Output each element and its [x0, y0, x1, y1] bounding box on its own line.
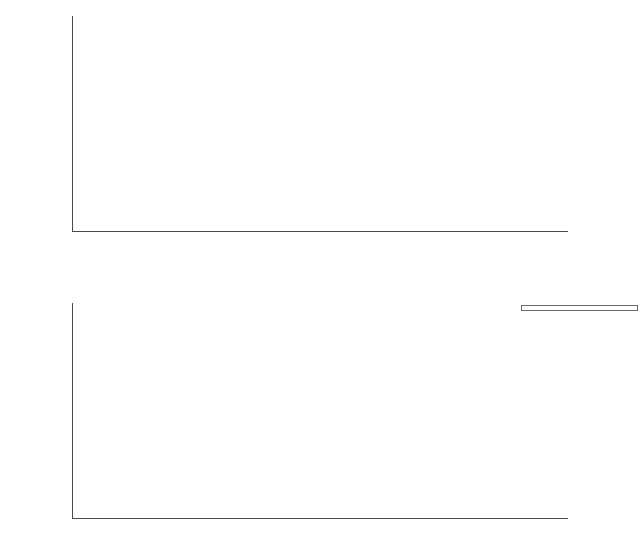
panel-bottom-stacked-cpue [0, 279, 640, 558]
y-axis-line-bottom [72, 303, 73, 519]
plot-area-bottom [72, 303, 568, 519]
legend [521, 305, 638, 311]
plot-area-top [72, 16, 568, 232]
x-axis-line-bottom [72, 518, 568, 519]
panel-top-total-cpue [0, 0, 640, 279]
x-axis-line-top [72, 231, 568, 232]
y-axis-line-top [72, 16, 73, 232]
figure-container [0, 0, 640, 558]
